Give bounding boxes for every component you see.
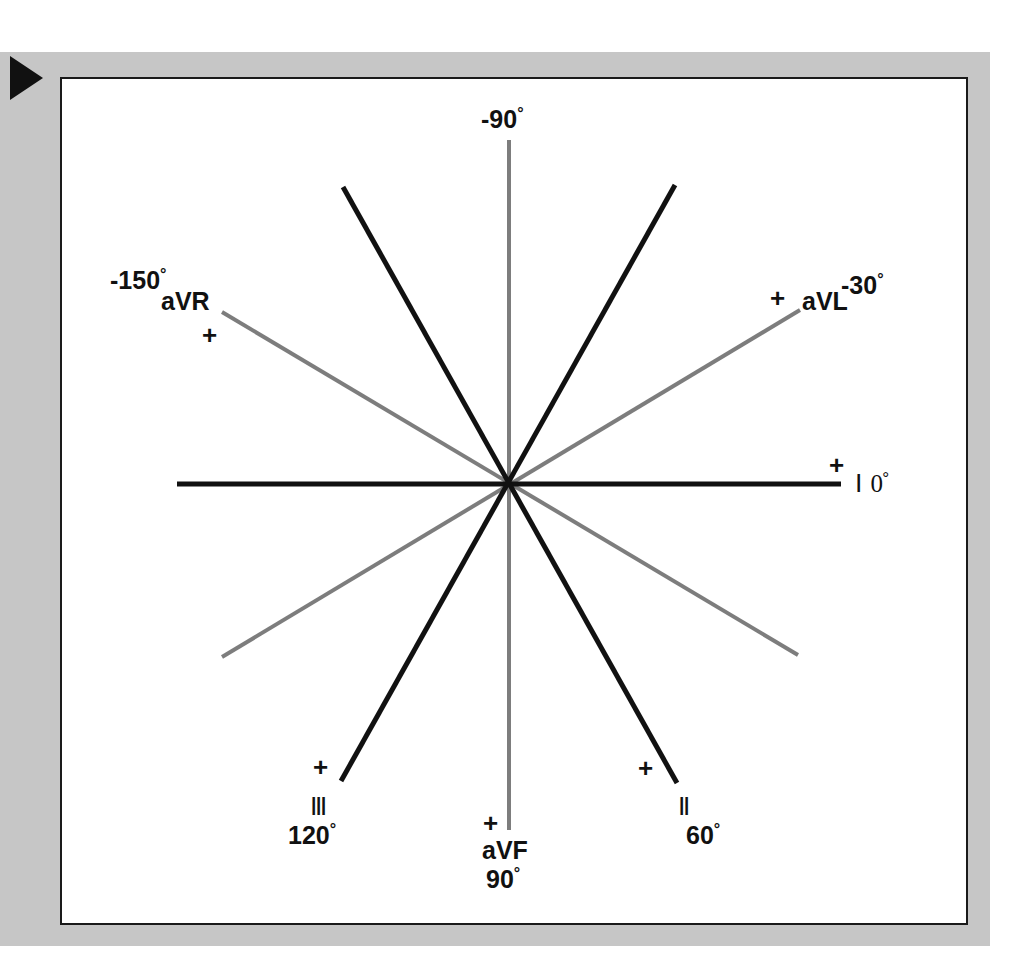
axis-label-avf-degrees: 90°: [486, 866, 520, 892]
avl-degree-value: -30: [841, 271, 877, 299]
lead-ii-degree-value: 60: [686, 821, 714, 849]
lead-iii-degree-symbol: °: [330, 821, 336, 838]
figure-plate: [60, 77, 968, 925]
axis-label-avl-degrees: -30°: [841, 272, 884, 298]
avl-positive-pole-marker: +: [770, 285, 785, 311]
axis-label-avf-name: aVF: [482, 838, 528, 863]
avr-degree-value: -150: [110, 266, 160, 294]
axis-label-avr-degrees: -150°: [110, 267, 166, 293]
lead-i-degree-symbol: °: [883, 469, 889, 486]
play-triangle-icon: [10, 56, 43, 100]
avr-positive-pole-marker: +: [202, 322, 217, 348]
avf-degree-value: 90: [486, 865, 514, 893]
avr-degree-symbol: °: [160, 266, 166, 283]
axis-label-lead-iii-name: Ⅲ: [310, 794, 327, 819]
lead-iii-positive-pole-marker: +: [313, 754, 328, 780]
hexaxial-figure: -90° -150° aVR + + aVL -30° + Ⅰ0° + Ⅲ 12…: [0, 0, 1020, 971]
avf-degree-symbol: °: [514, 865, 520, 882]
minus-90-degree-symbol: °: [517, 105, 523, 122]
axis-label-lead-i: Ⅰ0°: [855, 470, 888, 496]
lead-i-name: Ⅰ: [855, 470, 862, 497]
lead-iii-degree-value: 120: [288, 821, 330, 849]
axis-label-minus-90: -90°: [481, 106, 524, 132]
axis-label-lead-ii-degrees: 60°: [686, 822, 720, 848]
axis-label-lead-iii-degrees: 120°: [288, 822, 336, 848]
axis-label-avr-name: aVR: [161, 289, 210, 314]
avf-positive-pole-marker: +: [483, 810, 498, 836]
axis-label-lead-ii-name: Ⅱ: [678, 794, 690, 819]
lead-ii-degree-symbol: °: [714, 821, 720, 838]
minus-90-value: -90: [481, 105, 517, 133]
lead-ii-positive-pole-marker: +: [638, 755, 653, 781]
lead-i-positive-pole-marker: +: [829, 452, 844, 478]
lead-i-degree-value: 0: [871, 470, 883, 497]
avl-degree-symbol: °: [877, 271, 883, 288]
